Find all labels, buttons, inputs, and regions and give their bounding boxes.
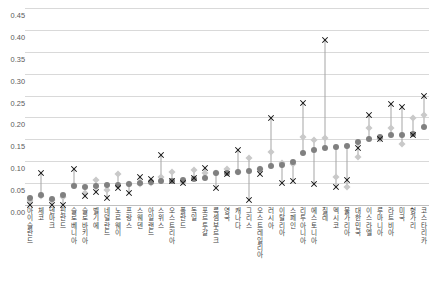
category-column — [156, 8, 167, 205]
x-axis-label: 룩셈부르크 — [211, 207, 222, 244]
chart-page: 0.450.400.350.300.250.200.150.100.050.00… — [0, 0, 434, 282]
data-point-circle — [137, 180, 143, 186]
category-column — [80, 8, 91, 205]
data-point-circle — [213, 170, 219, 176]
category-column — [178, 8, 189, 205]
data-point-cross — [365, 112, 372, 119]
plot-area — [25, 8, 429, 205]
x-axis-label: 영국 — [222, 207, 233, 222]
data-point-cross — [409, 131, 416, 138]
category-column — [320, 8, 331, 205]
x-axis-label: 대한민국 — [353, 207, 364, 237]
category-column — [254, 8, 265, 205]
data-point-cross — [169, 177, 176, 184]
y-axis-tick-label: 0.45 — [1, 12, 25, 19]
range-connector — [248, 158, 249, 200]
data-point-diamond — [398, 140, 405, 147]
data-point-diamond — [365, 125, 372, 132]
data-point-circle — [399, 132, 405, 138]
category-column — [276, 8, 287, 205]
x-axis-label: 이탈리아 — [276, 207, 287, 237]
x-axis-label: 오스트리아 — [167, 207, 178, 244]
category-column — [243, 8, 254, 205]
range-connector — [270, 118, 271, 166]
data-point-diamond — [114, 171, 121, 178]
data-point-cross — [333, 183, 340, 190]
range-connector — [325, 40, 326, 149]
data-point-circle — [388, 132, 394, 138]
data-point-circle — [311, 147, 317, 153]
x-axis-label: 스페인 — [287, 207, 298, 229]
category-column — [69, 8, 80, 205]
data-point-circle — [246, 168, 252, 174]
data-point-cross — [158, 151, 165, 158]
data-point-cross — [420, 92, 427, 99]
category-column — [232, 8, 243, 205]
data-point-cross — [387, 101, 394, 108]
x-axis-label: 에스토니아 — [309, 207, 320, 244]
data-point-circle — [322, 145, 328, 151]
range-connector — [401, 107, 402, 144]
data-point-circle — [104, 182, 110, 188]
category-column — [298, 8, 309, 205]
category-column — [58, 8, 69, 205]
category-column — [407, 8, 418, 205]
y-axis-tick-label: 0.05 — [1, 187, 25, 194]
data-point-cross — [234, 147, 241, 154]
gridline — [25, 205, 429, 206]
range-connector — [303, 103, 304, 153]
data-point-cross — [355, 145, 362, 152]
data-point-cross — [245, 196, 252, 203]
x-axis-labels: 아이슬란드체코덴마크핀란드슬로베니아슬로바키아벨기에네덜란드노르웨이프랑스스웨덴… — [25, 207, 429, 273]
x-axis-label: 루마니아 — [374, 207, 385, 237]
data-point-cross — [344, 176, 351, 183]
data-point-circle — [279, 162, 285, 168]
category-column — [309, 8, 320, 205]
data-point-circle — [126, 181, 132, 187]
data-point-diamond — [300, 134, 307, 141]
data-point-circle — [202, 175, 208, 181]
data-point-cross — [278, 180, 285, 187]
category-column — [91, 8, 102, 205]
data-point-diamond — [322, 135, 329, 142]
category-column — [396, 8, 407, 205]
x-axis-label: 노르웨이 — [112, 207, 123, 237]
x-axis-label: 라트비아 — [385, 207, 396, 237]
data-point-cross — [125, 190, 132, 197]
x-axis-label: 아일랜드 — [145, 207, 156, 237]
data-point-diamond — [267, 148, 274, 155]
y-axis-tick-label: 0.35 — [1, 56, 25, 63]
category-column — [374, 8, 385, 205]
data-point-cross — [311, 181, 318, 188]
x-axis-label: 미국 — [396, 207, 407, 222]
category-column — [353, 8, 364, 205]
x-axis-label: 핀란드 — [58, 207, 69, 229]
category-column — [101, 8, 112, 205]
y-axis-tick-label: 0.40 — [1, 34, 25, 41]
data-point-diamond — [311, 137, 318, 144]
x-axis-label: 덴마크 — [47, 207, 58, 229]
category-column — [363, 8, 374, 205]
y-axis-tick-label: 0.15 — [1, 144, 25, 151]
category-column — [211, 8, 222, 205]
x-axis-label: 이스라엘 — [363, 207, 374, 237]
data-point-cross — [322, 36, 329, 43]
x-axis-label: 불가리아 — [342, 207, 353, 237]
data-point-diamond — [344, 183, 351, 190]
category-column — [200, 8, 211, 205]
category-column — [36, 8, 47, 205]
x-axis-label: 스위스 — [156, 207, 167, 229]
data-point-cross — [136, 173, 143, 180]
data-point-circle — [268, 163, 274, 169]
data-point-cross — [256, 171, 263, 178]
x-axis-label: 스웨덴 — [134, 207, 145, 229]
x-axis-label: 슬로바키아 — [80, 207, 91, 244]
data-point-cross — [103, 194, 110, 201]
x-axis-label: 코스타리카 — [418, 207, 429, 244]
data-point-circle — [333, 144, 339, 150]
data-point-diamond — [169, 168, 176, 175]
data-point-cross — [202, 164, 209, 171]
x-axis-label: 그리스 — [243, 207, 254, 229]
category-column — [25, 8, 36, 205]
data-point-cross — [180, 180, 187, 187]
